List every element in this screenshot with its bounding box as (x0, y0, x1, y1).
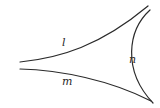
label-l: l (62, 36, 66, 49)
label-m: m (62, 75, 72, 88)
curve-m (20, 69, 151, 101)
label-n: n (129, 53, 136, 66)
curve-diagram: l m n (0, 0, 160, 108)
